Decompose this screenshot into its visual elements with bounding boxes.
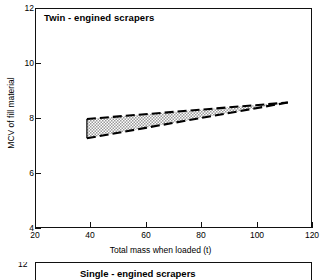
y-tick-mark-12 (35, 8, 41, 9)
x-tick-label-60: 60 (131, 231, 161, 240)
x-tick-label-120: 120 (297, 231, 321, 240)
x-tick-label-40: 40 (75, 231, 105, 240)
x-tick-label-20: 20 (20, 231, 50, 240)
x-tick-mark-100 (257, 222, 258, 228)
x-tick-mark-20 (35, 222, 36, 228)
chart-single-engined-scrapers: 12 Single - engined scrapers (0, 262, 321, 280)
y-tick-mark-10 (35, 63, 41, 64)
x-tick-mark-60 (146, 222, 147, 228)
panel-title-single: Single - engined scrapers (80, 268, 196, 279)
y-tick-label-12: 12 (10, 4, 34, 13)
y-tick-mark-8 (35, 118, 41, 119)
panel-title-twin: Twin - engined scrapers (44, 12, 154, 23)
plot-area-frame (35, 8, 312, 228)
plot-area-frame-two: Single - engined scrapers (35, 262, 312, 280)
data-band-svg (36, 9, 311, 227)
x-tick-label-80: 80 (186, 231, 216, 240)
x-tick-mark-40 (90, 222, 91, 228)
y-tick-label-12-chart-two: 12 (18, 262, 27, 269)
x-tick-label-100: 100 (242, 231, 272, 240)
chart-twin-engined-scrapers: Twin - engined scrapers 12 10 8 6 4 20 4… (0, 0, 321, 258)
x-tick-mark-80 (201, 222, 202, 228)
y-axis-title: MCV of fill material (6, 53, 16, 173)
x-tick-mark-120 (312, 222, 313, 228)
y-tick-mark-4 (35, 228, 41, 229)
x-axis-title: Total mass when loaded (t) (0, 245, 321, 255)
y-tick-mark-6 (35, 173, 41, 174)
